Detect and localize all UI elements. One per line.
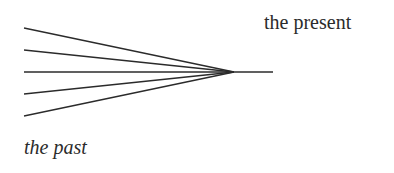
past-label: the past [24,137,87,157]
past-line-1 [24,28,234,72]
past-line-2 [24,50,234,72]
past-line-4 [24,72,234,94]
converging-lines-diagram: the present the past [0,0,394,173]
past-line-5 [24,72,234,116]
present-label: the present [264,12,351,32]
